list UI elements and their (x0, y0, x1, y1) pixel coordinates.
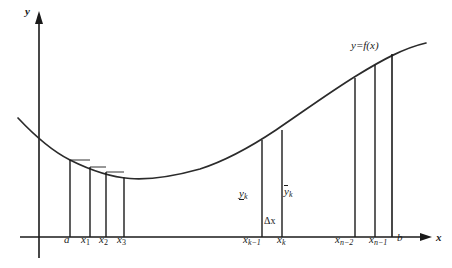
tick-label-xn-1-sub: n−1 (374, 238, 387, 247)
diagram-canvas (0, 0, 452, 268)
tick-label-x2: x2 (99, 234, 108, 245)
lower-value-label: yk (239, 188, 247, 199)
y-axis (35, 11, 43, 258)
lower-value-sub: k (244, 192, 248, 201)
function-curve (18, 43, 426, 179)
tick-label-x3-sub: 3 (122, 238, 126, 247)
tick-label-xk-1: xk−1 (243, 234, 261, 245)
x-axis-label: x (436, 232, 442, 243)
tick-label-xk: xk (277, 234, 285, 245)
tick-label-b-base: b (397, 231, 403, 243)
x-axis-arrowhead (420, 233, 432, 241)
tick-label-xn-2: xn−2 (335, 234, 353, 245)
tick-label-a-base: a (64, 233, 70, 245)
tick-label-xk-sub: k (282, 238, 286, 247)
delta-x-label: Δx (264, 216, 275, 226)
upper-value-label: yk (284, 186, 292, 197)
upper-value-sub: k (289, 190, 293, 199)
rectangle-tops-left (70, 160, 124, 172)
tick-label-a: a (64, 234, 70, 245)
function-label: y=f(x) (351, 40, 379, 51)
tick-label-b: b (397, 232, 403, 243)
riemann-sum-diagram: y x y=f(x) a x1 x2 x3 xk−1 xk xn−2 xn−1 … (0, 0, 452, 268)
tick-label-xk-1-sub: k−1 (248, 238, 261, 247)
tick-label-x1-sub: 1 (86, 238, 90, 247)
tick-label-xn-2-sub: n−2 (340, 238, 353, 247)
tick-label-x1: x1 (81, 234, 90, 245)
partition-lines-right (355, 54, 392, 237)
y-axis-arrowhead (35, 11, 43, 24)
tick-label-x2-sub: 2 (104, 238, 108, 247)
tick-label-xn-1: xn−1 (369, 234, 387, 245)
tick-label-x3: x3 (117, 234, 126, 245)
y-axis-label: y (25, 6, 30, 17)
